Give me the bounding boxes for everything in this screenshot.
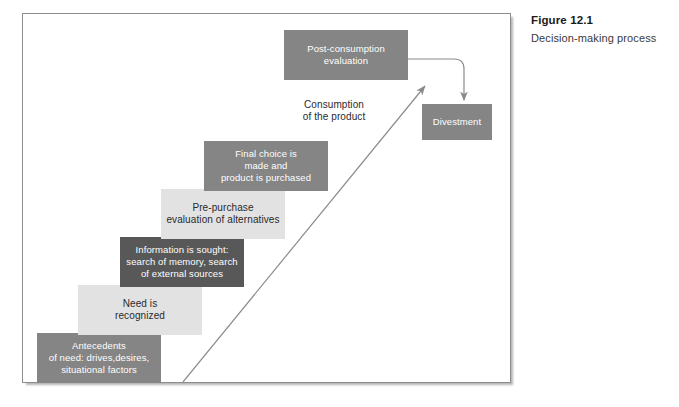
- step-box-information-sought: Information is sought: search of memory,…: [120, 237, 244, 287]
- figure-caption: Figure 12.1 Decision-making process: [531, 14, 676, 44]
- step-label-need-recognized: Need is recognized: [78, 298, 202, 323]
- step-label-post-consumption-evaluation: Post-consumption evaluation: [284, 43, 408, 67]
- step-box-antecedents: Antecedents of need: drives,desires, sit…: [37, 333, 161, 383]
- figure-caption-title: Figure 12.1: [531, 14, 676, 26]
- step-box-post-consumption-evaluation: Post-consumption evaluation: [284, 30, 408, 80]
- step-label-information-sought: Information is sought: search of memory,…: [120, 244, 244, 280]
- step-box-need-recognized: Need is recognized: [78, 285, 202, 335]
- step-label-antecedents: Antecedents of need: drives,desires, sit…: [37, 340, 161, 376]
- step-label-final-choice: Final choice is made and product is purc…: [204, 148, 328, 184]
- decision-making-process-diagram: Antecedents of need: drives,desires, sit…: [23, 14, 510, 382]
- step-box-divestment: Divestment: [422, 104, 492, 140]
- divestment-arrow: [408, 59, 464, 100]
- step-box-final-choice: Final choice is made and product is purc…: [204, 141, 328, 191]
- step-label-divestment: Divestment: [422, 116, 492, 128]
- step-label-consumption: Consumption of the product: [272, 99, 396, 124]
- step-label-consumption-block: Consumption of the product: [272, 94, 396, 128]
- step-label-pre-purchase-evaluation: Pre-purchase evaluation of alternatives: [161, 202, 285, 227]
- figure-frame: Antecedents of need: drives,desires, sit…: [22, 13, 511, 383]
- figure-caption-subtitle: Decision-making process: [531, 32, 676, 44]
- step-box-pre-purchase-evaluation: Pre-purchase evaluation of alternatives: [161, 189, 285, 239]
